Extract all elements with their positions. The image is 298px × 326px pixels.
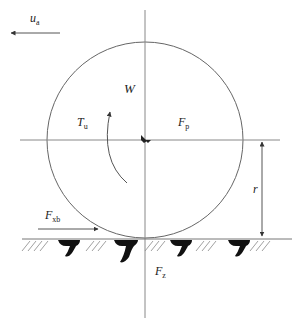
weight-label: W: [124, 81, 136, 96]
center-point-icon: [141, 135, 151, 143]
torque-label: Tu: [77, 115, 88, 131]
push-force-label: Fp: [177, 115, 189, 131]
torque-arrow: [107, 112, 127, 183]
tread-lug-icon: [58, 240, 80, 257]
radius-label: r: [253, 182, 258, 196]
tread-lug-icon: [114, 240, 138, 262]
velocity-label: ua: [30, 11, 40, 27]
tread-lugs: [58, 240, 250, 262]
tread-lug-icon: [228, 240, 250, 257]
traction-force-label: Fxb: [44, 208, 60, 224]
tread-lug-icon: [170, 240, 192, 257]
wheel-diagram: ua W Tu Fp r Fxb: [0, 0, 298, 326]
vertical-force-label: Fz: [154, 264, 166, 280]
